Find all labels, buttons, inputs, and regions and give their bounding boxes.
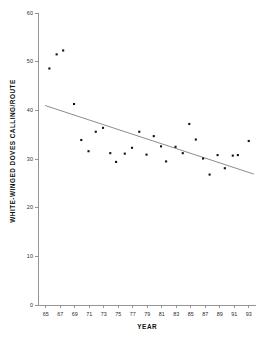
- x-tick-label: 75: [115, 311, 121, 317]
- data-point: [48, 67, 50, 69]
- data-points-group: [48, 49, 249, 175]
- data-point: [209, 174, 211, 176]
- trend-line-group: [45, 105, 254, 174]
- regression-trend-line: [45, 105, 254, 174]
- data-point: [124, 153, 126, 155]
- data-point: [248, 140, 250, 142]
- data-point: [95, 131, 97, 133]
- data-point: [174, 146, 176, 148]
- data-point: [115, 161, 117, 163]
- data-point: [153, 135, 155, 137]
- y-tick-label: 30: [27, 156, 33, 162]
- y-axis-title: WHITE-WINGED DOVES CALLING/ROUTE: [9, 79, 16, 223]
- x-axis-ticks: 656769717375777981838587899193: [43, 305, 252, 317]
- data-point: [87, 150, 89, 152]
- x-tick-label: 71: [86, 311, 92, 317]
- x-axis-title: YEAR: [137, 323, 157, 330]
- data-point: [109, 152, 111, 154]
- data-point: [237, 154, 239, 156]
- x-tick-label: 93: [246, 311, 252, 317]
- data-point: [102, 127, 104, 129]
- x-tick-label: 85: [188, 311, 194, 317]
- data-point: [232, 155, 234, 157]
- y-tick-label: 40: [27, 107, 33, 113]
- chart-canvas: 0102030405060 65676971737577798183858789…: [0, 0, 266, 345]
- data-point: [80, 139, 82, 141]
- data-point: [138, 131, 140, 133]
- y-tick-label: 50: [27, 58, 33, 64]
- data-point: [182, 152, 184, 154]
- data-point: [160, 145, 162, 147]
- y-tick-label: 20: [27, 204, 33, 210]
- data-point: [131, 147, 133, 149]
- x-tick-label: 87: [202, 311, 208, 317]
- data-point: [202, 157, 204, 159]
- scatter-chart: 0102030405060 65676971737577798183858789…: [0, 0, 266, 345]
- axes-group: [39, 13, 257, 305]
- data-point: [73, 103, 75, 105]
- data-point: [188, 123, 190, 125]
- y-axis-ticks: 0102030405060: [27, 10, 39, 308]
- x-tick-label: 81: [159, 311, 165, 317]
- data-point: [224, 167, 226, 169]
- x-tick-label: 77: [130, 311, 136, 317]
- y-tick-label: 0: [30, 302, 33, 308]
- y-tick-label: 10: [27, 253, 33, 259]
- x-tick-label: 91: [231, 311, 237, 317]
- data-point: [217, 154, 219, 156]
- x-tick-label: 67: [57, 311, 63, 317]
- data-point: [62, 49, 64, 51]
- y-tick-label: 60: [27, 10, 33, 16]
- data-point: [145, 154, 147, 156]
- x-tick-label: 69: [72, 311, 78, 317]
- data-point: [195, 138, 197, 140]
- x-tick-label: 73: [101, 311, 107, 317]
- x-tick-label: 83: [173, 311, 179, 317]
- x-tick-label: 65: [43, 311, 49, 317]
- x-tick-label: 89: [217, 311, 223, 317]
- data-point: [56, 53, 58, 55]
- x-tick-label: 79: [144, 311, 150, 317]
- data-point: [165, 160, 167, 162]
